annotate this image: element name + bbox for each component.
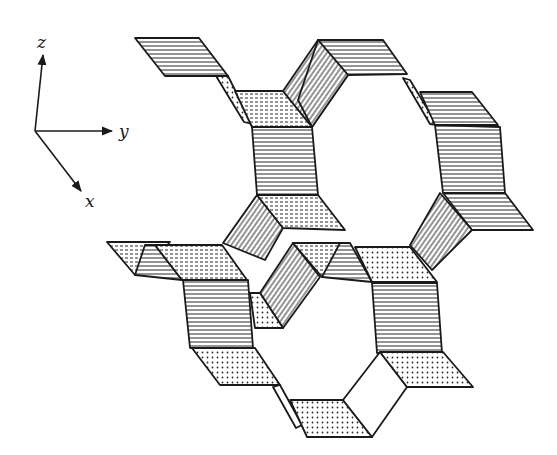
x-axis-label: x	[85, 191, 95, 211]
upper-right-ring	[298, 40, 533, 270]
left-lower-dotted	[192, 348, 280, 385]
x-axis-arrow	[35, 131, 81, 191]
z-axis-arrow	[35, 55, 43, 131]
top-left-face	[135, 38, 228, 76]
axes-indicator: z y x	[35, 32, 129, 211]
right-vertical-face	[435, 125, 505, 193]
bottom-ring	[273, 352, 473, 437]
y-axis-label: y	[118, 121, 129, 141]
upper-left-arm	[135, 38, 252, 124]
left-vertical-face	[183, 280, 253, 348]
framework-diagram: z y x	[0, 0, 557, 455]
right-middle-vertical-face	[372, 283, 442, 353]
upper-center-vertical-face	[252, 127, 318, 195]
z-axis-label: z	[36, 32, 47, 52]
